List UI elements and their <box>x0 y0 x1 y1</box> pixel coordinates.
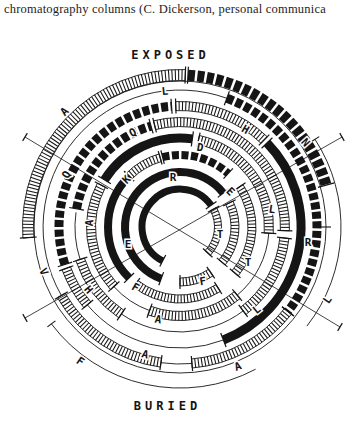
hatch-rung <box>207 138 210 147</box>
hatch-rung <box>213 305 217 313</box>
hatch-rung <box>92 196 101 199</box>
hatch-rung <box>220 353 223 362</box>
ring-arc-thin <box>161 363 192 364</box>
hatch-rung <box>238 346 242 354</box>
hatch-rung <box>171 295 172 303</box>
hatch-rung <box>189 102 190 111</box>
hatch-rung <box>245 203 253 206</box>
hatch-rung <box>122 348 126 356</box>
segment-end-tick <box>171 99 172 114</box>
hatch-rung <box>154 291 157 299</box>
hatch-rung <box>151 307 154 316</box>
hatch-rung <box>198 358 199 367</box>
hatch-rung <box>227 204 234 207</box>
hatch-rung <box>238 118 242 126</box>
residue-letter: R <box>305 236 312 249</box>
reference-line-tick <box>338 323 343 331</box>
hatch-rung <box>242 197 249 200</box>
hatch-rung <box>65 273 73 277</box>
hatch-rung <box>91 254 100 257</box>
hatch-rung <box>214 355 216 364</box>
hatch-rung <box>164 294 166 302</box>
hatch-rung <box>248 234 256 235</box>
hatch-rung <box>203 120 205 129</box>
hatch-rung <box>93 193 101 196</box>
hatch-rung <box>279 244 288 246</box>
hatch-rung <box>148 289 151 296</box>
hatch-rung <box>199 120 201 129</box>
residue-letter: T <box>245 256 252 269</box>
hatch-rung <box>158 71 160 82</box>
residue-letter: F <box>74 354 87 368</box>
hatch-rung <box>118 346 122 354</box>
hatch-rung <box>150 357 152 366</box>
hatch-rung <box>279 247 288 249</box>
hatch-rung <box>33 171 43 175</box>
hatch-rung <box>172 311 173 320</box>
hatch-rung <box>77 261 85 264</box>
hatch-rung <box>88 209 97 211</box>
hatch-rung <box>211 106 213 115</box>
residue-letter: L <box>161 85 169 99</box>
hatch-rung <box>247 217 255 218</box>
hatch-rung <box>66 276 74 280</box>
hatch-rung <box>156 155 159 163</box>
residue-letter: R <box>170 171 177 184</box>
hatch-rung <box>202 291 205 299</box>
hatch-rung <box>204 308 207 317</box>
hatch-rung <box>195 310 197 319</box>
residue-letter: A <box>154 313 163 327</box>
hatch-rung <box>192 311 193 320</box>
hatch-rung <box>87 216 96 217</box>
hatch-rung <box>161 293 163 301</box>
hatch-rung <box>184 295 185 303</box>
hatch-rung <box>149 158 152 165</box>
hatch-rung <box>23 217 34 218</box>
hatch-rung <box>168 311 169 320</box>
hatch-rung <box>216 304 220 312</box>
hatch-rung <box>94 260 102 264</box>
hatch-rung <box>277 253 286 255</box>
hatch-rung <box>280 217 289 218</box>
hatch-rung <box>151 72 153 83</box>
residue-letter: A <box>232 359 243 374</box>
hatch-rung <box>207 357 209 366</box>
hatch-rung <box>201 309 203 318</box>
hatch-rung <box>87 233 96 234</box>
hatch-rung <box>195 359 196 368</box>
hatch-rung <box>195 103 196 112</box>
segment-end-tick <box>55 292 68 300</box>
hatch-rung <box>196 119 198 128</box>
hatch-rung <box>230 215 238 217</box>
residue-letter: H <box>239 122 251 137</box>
hatch-rung <box>135 76 138 87</box>
hatch-rung <box>209 122 212 131</box>
hatch-rung <box>229 131 233 139</box>
hatch-rung <box>172 70 173 81</box>
hatch-rung <box>96 186 104 190</box>
hatch-rung <box>90 202 99 204</box>
hatch-rung <box>131 351 134 359</box>
hatch-rung <box>206 121 208 130</box>
hatch-rung <box>88 242 97 244</box>
hatch-rung <box>174 118 175 127</box>
hatch-rung <box>229 350 232 358</box>
hatch-rung <box>29 184 39 187</box>
hatch-rung <box>270 178 278 182</box>
hatch-rung <box>204 357 206 366</box>
hatch-rung <box>145 74 147 85</box>
hatch-rung <box>232 349 236 357</box>
hatch-rung <box>217 354 219 363</box>
hatch-rung <box>213 286 217 293</box>
hatch-rung <box>206 271 210 278</box>
hatch-rung <box>31 177 41 181</box>
hatch-rung <box>192 277 194 285</box>
hatch-rung <box>167 118 168 127</box>
hatch-rung <box>198 310 200 319</box>
residue-letter: D <box>196 141 205 155</box>
hatch-rung <box>89 245 98 247</box>
hatch-rung <box>234 268 240 273</box>
hatch-rung <box>143 161 147 168</box>
segment-end-tick <box>82 300 94 310</box>
hatch-rung <box>88 213 97 214</box>
